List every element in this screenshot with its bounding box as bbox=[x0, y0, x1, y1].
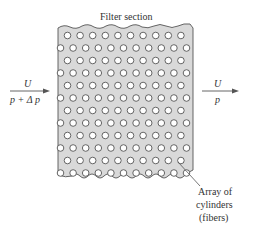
cylinder-fiber bbox=[64, 107, 71, 114]
cylinder-fiber bbox=[178, 82, 185, 89]
cylinder-fiber bbox=[165, 107, 172, 114]
cylinder-fiber bbox=[95, 170, 102, 177]
cylinder-fiber bbox=[77, 32, 84, 39]
cylinder-fiber bbox=[70, 120, 77, 127]
cylinder-fiber bbox=[145, 120, 152, 127]
cylinder-fiber bbox=[145, 145, 152, 152]
cylinder-fiber bbox=[140, 132, 147, 139]
cylinder-fiber bbox=[120, 145, 127, 152]
cylinder-fiber bbox=[133, 45, 140, 52]
cylinder-fiber bbox=[95, 45, 102, 52]
cylinder-fiber bbox=[108, 45, 115, 52]
cylinder-fiber bbox=[57, 70, 64, 77]
cylinder-fiber bbox=[102, 157, 109, 164]
cylinder-fiber bbox=[127, 132, 134, 139]
cylinder-fiber bbox=[133, 145, 140, 152]
cylinder-fiber bbox=[158, 45, 165, 52]
cylinder-fiber bbox=[102, 107, 109, 114]
cylinder-fiber bbox=[152, 107, 159, 114]
cylinder-fiber bbox=[120, 170, 127, 177]
cylinder-fiber bbox=[108, 70, 115, 77]
cylinder-fiber bbox=[145, 70, 152, 77]
cylinder-fiber bbox=[158, 70, 165, 77]
cylinder-fiber bbox=[77, 82, 84, 89]
cylinder-fiber bbox=[115, 82, 122, 89]
cylinder-fiber bbox=[152, 32, 159, 39]
cylinder-fiber bbox=[120, 95, 127, 102]
cylinder-fiber bbox=[108, 145, 115, 152]
callout-line-3: (fibers) bbox=[199, 212, 228, 223]
cylinder-fiber bbox=[115, 132, 122, 139]
cylinder-fiber bbox=[64, 57, 71, 64]
cylinder-fiber bbox=[57, 95, 64, 102]
cylinder-fiber bbox=[140, 57, 147, 64]
cylinder-fiber bbox=[127, 82, 134, 89]
cylinder-fiber bbox=[57, 145, 64, 152]
cylinder-fiber bbox=[102, 82, 109, 89]
cylinder-fiber bbox=[115, 157, 122, 164]
cylinder-fiber bbox=[89, 32, 96, 39]
cylinder-fiber bbox=[82, 45, 89, 52]
cylinder-fiber bbox=[152, 82, 159, 89]
cylinder-fiber bbox=[178, 132, 185, 139]
filter-section-title: Filter section bbox=[100, 11, 153, 22]
cylinder-fiber bbox=[82, 170, 89, 177]
cylinder-fiber bbox=[82, 95, 89, 102]
cylinder-fiber bbox=[115, 107, 122, 114]
cylinder-fiber bbox=[171, 145, 178, 152]
cylinder-fiber bbox=[183, 145, 190, 152]
cylinder-fiber bbox=[108, 170, 115, 177]
cylinder-fiber bbox=[140, 82, 147, 89]
cylinder-fiber bbox=[70, 95, 77, 102]
cylinder-fiber bbox=[171, 170, 178, 177]
cylinder-fiber bbox=[127, 107, 134, 114]
cylinder-fiber bbox=[165, 57, 172, 64]
cylinder-fiber bbox=[178, 57, 185, 64]
cylinder-fiber bbox=[145, 170, 152, 177]
cylinder-fiber bbox=[102, 57, 109, 64]
cylinder-fiber bbox=[89, 132, 96, 139]
cylinder-fiber bbox=[89, 57, 96, 64]
cylinder-fiber bbox=[178, 32, 185, 39]
cylinder-fiber bbox=[140, 107, 147, 114]
cylinder-fiber bbox=[77, 57, 84, 64]
inlet-velocity-label: U bbox=[24, 78, 31, 89]
cylinder-fiber bbox=[57, 170, 64, 177]
cylinder-fiber bbox=[158, 145, 165, 152]
cylinder-fiber bbox=[183, 95, 190, 102]
callout-line-1: Array of bbox=[198, 186, 232, 197]
outlet-arrowhead bbox=[232, 89, 239, 94]
cylinder-fiber bbox=[183, 45, 190, 52]
cylinder-fiber bbox=[120, 120, 127, 127]
cylinder-fiber bbox=[183, 120, 190, 127]
cylinder-fiber bbox=[89, 82, 96, 89]
cylinder-fiber bbox=[120, 70, 127, 77]
cylinder-fiber bbox=[64, 82, 71, 89]
cylinder-fiber bbox=[57, 45, 64, 52]
cylinder-fiber bbox=[95, 145, 102, 152]
cylinder-fiber bbox=[115, 32, 122, 39]
cylinder-fiber bbox=[145, 95, 152, 102]
cylinder-fiber bbox=[120, 45, 127, 52]
cylinder-fiber bbox=[178, 107, 185, 114]
cylinder-fiber bbox=[70, 170, 77, 177]
cylinder-fiber bbox=[165, 32, 172, 39]
cylinder-fiber bbox=[70, 145, 77, 152]
cylinder-fiber bbox=[140, 157, 147, 164]
cylinder-fiber bbox=[57, 120, 64, 127]
inlet-pressure-label: p + Δ p bbox=[10, 94, 40, 105]
cylinder-fiber bbox=[95, 120, 102, 127]
cylinder-fiber bbox=[152, 157, 159, 164]
cylinder-fiber bbox=[133, 170, 140, 177]
cylinder-fiber bbox=[165, 82, 172, 89]
cylinder-fiber bbox=[102, 32, 109, 39]
callout-line-2: cylinders bbox=[196, 199, 233, 210]
cylinder-fiber bbox=[77, 157, 84, 164]
cylinder-fiber bbox=[89, 157, 96, 164]
cylinder-fiber bbox=[133, 70, 140, 77]
inlet-arrowhead bbox=[43, 89, 50, 94]
cylinder-fiber bbox=[82, 70, 89, 77]
cylinder-fiber bbox=[77, 107, 84, 114]
cylinder-fiber bbox=[165, 157, 172, 164]
cylinder-fiber bbox=[95, 70, 102, 77]
